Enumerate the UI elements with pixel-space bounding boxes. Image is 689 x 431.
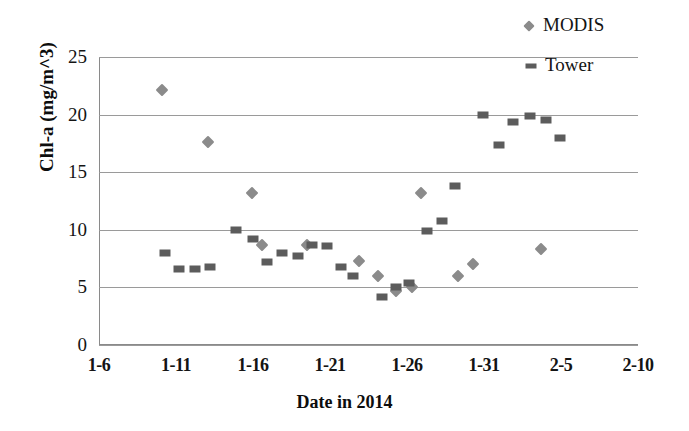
x-tick-label: 2-10 [598,356,678,374]
diamond-marker-icon [520,18,538,32]
x-tick-label: 1-31 [444,356,524,374]
x-axis-title: Date in 2014 [0,392,689,413]
x-tick-label: 1-26 [367,356,447,374]
x-tick-label: 1-11 [136,356,216,374]
chart-figure: 0510152025 1-61-111-161-211-261-312-52-1… [0,0,689,431]
x-tick-label: 1-16 [213,356,293,374]
x-tick-label: 2-5 [521,356,601,374]
y-axis-title: Chl-a (mg/m^3) [36,0,58,232]
legend-label-tower: Tower [545,54,593,76]
legend-item-modis: MODIS [520,14,604,36]
x-tick-label: 1-21 [290,356,370,374]
legend-label-modis: MODIS [543,14,604,36]
x-tick-label: 1-6 [59,356,139,374]
legend-item-tower: Tower [522,54,593,76]
square-marker-icon [522,58,540,72]
